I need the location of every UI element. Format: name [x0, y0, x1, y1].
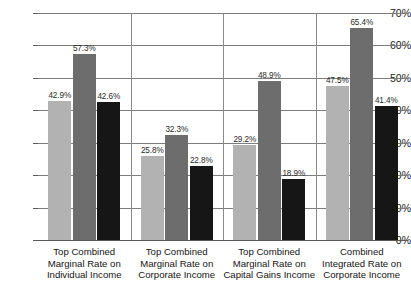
- bar-series-2-group-2: [258, 81, 281, 240]
- bar-series-1-group-3: [326, 86, 349, 240]
- category-label-line: Integrated Rate on: [316, 258, 409, 270]
- category-label-line: Top Combined: [223, 246, 316, 258]
- category-label-line: Top Combined: [38, 246, 131, 258]
- plot-area: 42.9%57.3%42.6%25.8%32.3%22.8%29.2%48.9%…: [38, 13, 408, 240]
- group-separator: [131, 13, 132, 240]
- category-label-line: Marginal Rate on: [38, 258, 131, 270]
- bar-value-label: 57.3%: [62, 44, 106, 53]
- bar-series-3-group-1: [190, 166, 213, 240]
- category-label-line: Marginal Rate on: [131, 258, 224, 270]
- category-label-line: Marginal Rate on: [223, 258, 316, 270]
- category-label-line: Top Combined: [131, 246, 224, 258]
- category-label-3: CombinedIntegrated Rate onCorporate Inco…: [316, 246, 409, 281]
- bar-series-2-group-0: [73, 54, 96, 240]
- category-label-1: Top CombinedMarginal Rate onCorporate In…: [131, 246, 224, 281]
- bar-value-label: 25.8%: [130, 146, 174, 155]
- bar-series-3-group-0: [97, 102, 120, 240]
- bar-value-label: 22.8%: [179, 156, 223, 165]
- bar-series-3-group-3: [375, 106, 398, 240]
- group-separator: [316, 13, 317, 240]
- group-separator: [223, 13, 224, 240]
- bar-series-1-group-1: [141, 156, 164, 240]
- bar-series-1-group-2: [233, 145, 256, 240]
- category-label-line: Capital Gains Income: [223, 269, 316, 281]
- bar-value-label: 42.9%: [38, 91, 82, 100]
- bar-value-label: 29.2%: [223, 135, 267, 144]
- category-label-2: Top CombinedMarginal Rate onCapital Gain…: [223, 246, 316, 281]
- bar-value-label: 42.6%: [87, 92, 131, 101]
- bar-value-label: 18.9%: [272, 169, 316, 178]
- bar-series-3-group-2: [282, 179, 305, 240]
- bar-value-label: 41.4%: [364, 96, 408, 105]
- category-label-line: Individual Income: [38, 269, 131, 281]
- bar-value-label: 65.4%: [340, 18, 384, 27]
- category-label-line: Corporate Income: [316, 269, 409, 281]
- bar-chart: 70%60%50%40%30%20%10%0% 42.9%57.3%42.6%2…: [0, 0, 411, 294]
- bar-value-label: 32.3%: [155, 125, 199, 134]
- bar-series-2-group-3: [350, 28, 373, 240]
- gridline-0: [38, 240, 408, 241]
- bar-series-1-group-0: [48, 101, 71, 240]
- category-label-line: Corporate Income: [131, 269, 224, 281]
- bar-value-label: 47.5%: [315, 76, 359, 85]
- category-label-line: Combined: [316, 246, 409, 258]
- bar-value-label: 48.9%: [247, 71, 291, 80]
- category-label-0: Top CombinedMarginal Rate onIndividual I…: [38, 246, 131, 281]
